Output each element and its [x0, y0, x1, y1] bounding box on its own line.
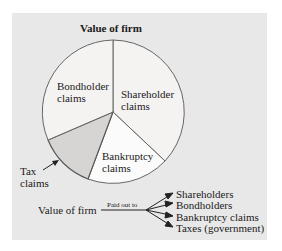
- slice-label-bondholder: Bondholderclaims: [57, 80, 109, 104]
- chart-title: Value of firm: [80, 22, 142, 34]
- flow-source: Value of firm: [38, 204, 97, 216]
- flow-arrow-label: Paid out to: [107, 199, 137, 211]
- flow-target-taxes: Taxes (government): [176, 222, 264, 234]
- flow-target-bondholders: Bondholders: [176, 199, 232, 211]
- slice-label-bankruptcy: Bankruptcyclaims: [102, 150, 153, 174]
- slice-label-tax: Taxclaims: [20, 165, 49, 189]
- slice-label-shareholder: Shareholderclaims: [121, 88, 174, 112]
